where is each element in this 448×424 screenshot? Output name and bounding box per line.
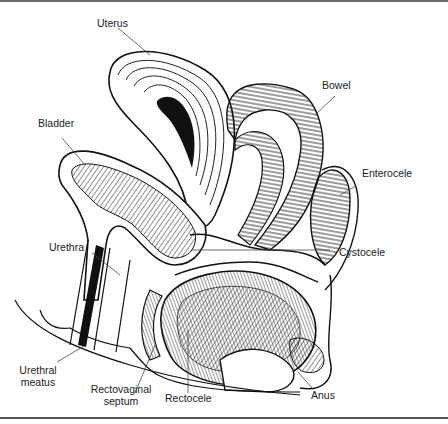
label-urethral-meatus: Urethral meatus: [14, 364, 62, 388]
label-enterocele: Enterocele: [362, 167, 412, 179]
bottom-border: [0, 417, 448, 419]
label-rectovaginal-septum-line1: Rectovaginal: [86, 383, 156, 395]
label-urethral-meatus-line1: Urethral: [14, 364, 62, 376]
label-urethral-meatus-line2: meatus: [14, 376, 62, 388]
bowel-shape: [227, 84, 323, 250]
label-urethra: Urethra: [49, 241, 84, 253]
label-bowel: Bowel: [322, 79, 351, 91]
urethra-shape: [70, 240, 130, 352]
label-anus: Anus: [311, 389, 335, 401]
label-bladder: Bladder: [38, 117, 74, 129]
label-rectovaginal-septum: Rectovaginal septum: [86, 383, 156, 407]
label-uterus: Uterus: [97, 17, 128, 29]
enterocele-shape: [311, 167, 359, 290]
pelvic-section-illustration: [0, 0, 448, 424]
label-rectovaginal-septum-line2: septum: [86, 395, 156, 407]
label-cystocele: Cystocele: [339, 246, 385, 258]
label-rectocele: Rectocele: [165, 392, 212, 404]
anatomy-figure: Uterus Bowel Bladder Enterocele Urethra …: [0, 0, 448, 424]
